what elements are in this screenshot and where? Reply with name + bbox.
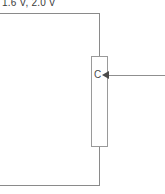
wire-bottom-vertical bbox=[99, 147, 100, 185]
voltage-label: 1.6 V, 2.0 V bbox=[2, 0, 56, 8]
annotation-arrow-icon bbox=[102, 71, 109, 79]
wire-bottom-horizontal bbox=[0, 185, 100, 186]
annotation-leader-line bbox=[108, 75, 165, 76]
wire-top-horizontal bbox=[0, 13, 100, 14]
capacitor-label: C bbox=[94, 69, 101, 80]
wire-top-vertical bbox=[99, 13, 100, 56]
circuit-diagram-canvas: 1.6 V, 2.0 V C bbox=[0, 0, 165, 194]
